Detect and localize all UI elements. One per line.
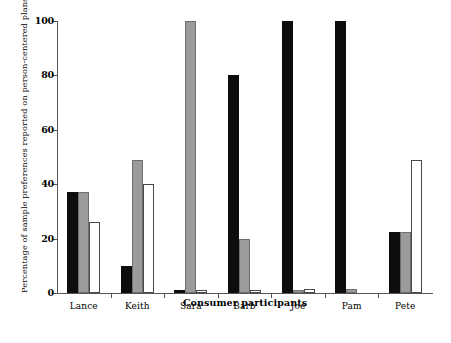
bar bbox=[400, 232, 411, 293]
bar bbox=[411, 160, 422, 293]
bar-chart-figure: Percentage of sample preferences reporte… bbox=[0, 0, 451, 343]
bar bbox=[185, 21, 196, 293]
bar bbox=[389, 232, 400, 293]
bar bbox=[121, 266, 132, 293]
bar bbox=[346, 289, 357, 293]
bar bbox=[132, 160, 143, 293]
bar bbox=[89, 222, 100, 293]
bar bbox=[335, 21, 346, 293]
bar bbox=[250, 290, 261, 293]
bar bbox=[239, 239, 250, 293]
bar bbox=[78, 192, 89, 293]
bar bbox=[196, 290, 207, 293]
y-tick-label: 60 bbox=[41, 123, 54, 136]
y-tick-label: 0 bbox=[48, 286, 54, 299]
bar bbox=[174, 290, 185, 293]
bar bbox=[304, 289, 315, 293]
bar bbox=[67, 192, 78, 293]
y-tick-label: 20 bbox=[41, 232, 54, 245]
bar bbox=[293, 290, 304, 293]
y-tick-label: 80 bbox=[41, 68, 54, 81]
plot-area: 020406080100 LanceKeithSaraBarbJoePamPet… bbox=[57, 21, 432, 293]
bar bbox=[282, 21, 293, 293]
y-axis-title: Percentage of sample preferences reporte… bbox=[16, 21, 32, 293]
bar bbox=[143, 184, 154, 293]
x-axis-title: Consumer participants bbox=[57, 296, 433, 310]
x-axis-line bbox=[57, 293, 433, 294]
bar bbox=[228, 75, 239, 293]
y-tick-label: 100 bbox=[35, 14, 54, 27]
y-tick-label: 40 bbox=[41, 177, 54, 190]
